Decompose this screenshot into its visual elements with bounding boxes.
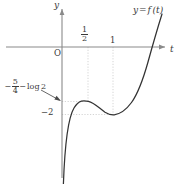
fraction-denominator: 4: [12, 86, 19, 95]
minus-operator: −: [19, 83, 27, 91]
x-tick-label-one: 1: [110, 36, 115, 45]
x-axis: [6, 45, 165, 50]
fraction-one-half: 1 2: [81, 26, 88, 44]
leading-minus-sign: −: [4, 83, 12, 91]
log-two-term: log 2: [27, 83, 47, 91]
x-axis-label: t: [170, 45, 174, 54]
fraction-numerator: 1: [81, 26, 88, 34]
fraction-numerator: 5: [12, 78, 19, 86]
fraction-denominator: 2: [81, 34, 88, 43]
curve-label: y = f (t): [133, 6, 163, 15]
y-axis: [60, 9, 65, 178]
x-tick-label-one-half: 1 2: [81, 26, 88, 44]
graph-figure: y t O 1 2 1 y = f (t) − 5 4 − log 2 −2: [0, 0, 184, 184]
fraction-five-fourths: 5 4: [12, 78, 19, 96]
x-axis-arrowhead: [159, 45, 165, 50]
origin-label: O: [54, 49, 61, 58]
y-axis-arrowhead: [60, 9, 65, 15]
guide-lines: [62, 47, 115, 115]
y-axis-label: y: [54, 1, 59, 10]
local-max-value-label: − 5 4 − log 2: [4, 78, 47, 96]
y-tick-label-minus-two: −2: [41, 108, 54, 117]
local-max-expression: − 5 4 − log 2: [4, 78, 47, 96]
